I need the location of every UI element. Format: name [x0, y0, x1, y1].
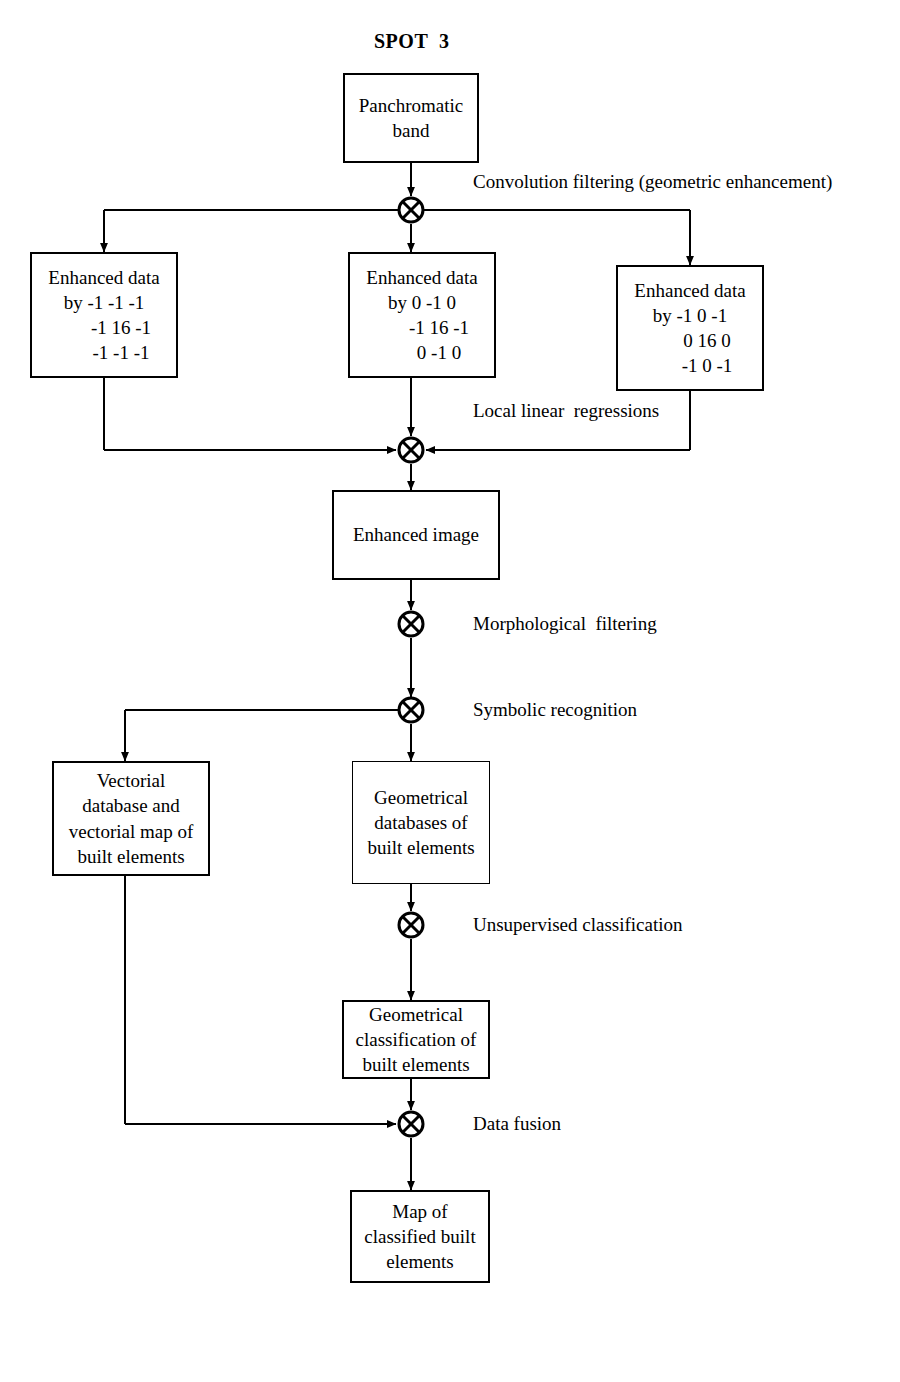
- node-enhanced-data-left: Enhanced data by -1 -1 -1 -1 16 -1 -1 -1…: [30, 252, 178, 378]
- node-line: built elements: [77, 844, 184, 869]
- node-line: band: [393, 118, 430, 143]
- node-line: 0 16 0: [649, 328, 731, 353]
- node-enhanced-data-middle: Enhanced data by 0 -1 0 -1 16 -1 0 -1 0: [348, 252, 496, 378]
- node-line: Panchromatic: [359, 93, 463, 118]
- edge-label-convolution-filtering: Convolution filtering (geometric enhance…: [473, 171, 832, 193]
- edge-label-data-fusion: Data fusion: [473, 1113, 561, 1135]
- edge-label-morphological-filtering: Morphological filtering: [473, 613, 657, 635]
- node-line: by -1 -1 -1: [64, 290, 145, 315]
- node-line: Vectorial: [97, 768, 166, 793]
- node-line: -1 16 -1: [375, 315, 469, 340]
- node-line: elements: [386, 1249, 454, 1274]
- node-geometrical-classification: Geometrical classification of built elem…: [342, 1000, 490, 1079]
- flowchart-diagram: SPOT 3 Panchromatic band Enhanced data b…: [0, 0, 900, 1382]
- circle-cross-icon: [399, 1112, 423, 1136]
- node-line: Enhanced data: [634, 278, 745, 303]
- node-map-classified-built-elements: Map of classified built elements: [350, 1190, 490, 1283]
- circle-cross-icon: [399, 438, 423, 462]
- node-enhanced-image: Enhanced image: [332, 490, 500, 580]
- circle-cross-icon: [399, 698, 423, 722]
- node-line: databases of: [374, 810, 467, 835]
- edge-label-symbolic-recognition: Symbolic recognition: [473, 699, 637, 721]
- circle-cross-icon: [399, 612, 423, 636]
- node-line: 0 -1 0: [383, 340, 461, 365]
- node-line: Map of: [392, 1199, 447, 1224]
- connector-layer: [0, 0, 900, 1382]
- node-line: classification of: [356, 1027, 477, 1052]
- node-line: vectorial map of: [69, 819, 194, 844]
- node-line: built elements: [362, 1052, 469, 1077]
- node-line: by 0 -1 0: [388, 290, 456, 315]
- edge-label-local-linear-regressions: Local linear regressions: [473, 400, 659, 422]
- node-line: -1 0 -1: [648, 353, 733, 378]
- node-geometrical-databases: Geometrical databases of built elements: [352, 761, 490, 884]
- node-line: Geometrical: [374, 785, 468, 810]
- node-enhanced-data-right: Enhanced data by -1 0 -1 0 16 0 -1 0 -1: [616, 265, 764, 391]
- page-title: SPOT 3: [374, 30, 449, 53]
- node-panchromatic-band: Panchromatic band: [343, 73, 479, 163]
- node-vectorial-database: Vectorial database and vectorial map of …: [52, 761, 210, 876]
- node-line: -1 -1 -1: [59, 340, 150, 365]
- node-line: Enhanced data: [48, 265, 159, 290]
- circle-cross-icon: [399, 913, 423, 937]
- node-line: -1 16 -1: [57, 315, 151, 340]
- node-line: Enhanced image: [353, 522, 479, 547]
- node-line: Geometrical: [369, 1002, 463, 1027]
- node-line: built elements: [367, 835, 474, 860]
- circle-cross-icon: [399, 198, 423, 222]
- node-line: classified built: [364, 1224, 475, 1249]
- node-line: by -1 0 -1: [653, 303, 727, 328]
- edge-label-unsupervised-classification: Unsupervised classification: [473, 914, 682, 936]
- node-line: Enhanced data: [366, 265, 477, 290]
- node-line: database and: [82, 793, 180, 818]
